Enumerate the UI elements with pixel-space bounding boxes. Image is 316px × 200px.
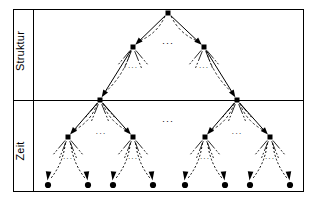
fan-l4-a-dots-1 bbox=[53, 150, 57, 155]
section-label-struktur: Struktur bbox=[14, 19, 26, 83]
edge-l2right-to-l3right-solid bbox=[206, 50, 232, 92]
leaf-edge-1-arrowhead bbox=[46, 171, 52, 180]
diagram-canvas: ······························ Struktur … bbox=[0, 0, 316, 200]
tree-leaf-7 bbox=[247, 182, 253, 188]
leaf-edge-2-arrowhead bbox=[84, 171, 90, 180]
ellipsis-under-l4-c: ··· bbox=[200, 155, 210, 162]
fan-l4-b-dots-0 bbox=[124, 153, 126, 159]
edge-l2left-to-l3left-arrowhead bbox=[102, 89, 108, 97]
fan-l4-b-dots-3 bbox=[140, 153, 142, 159]
leaf-edge-5-arrowhead bbox=[183, 171, 189, 180]
fan-l3-left-dots-3 bbox=[107, 116, 109, 122]
tree-node-root bbox=[166, 11, 171, 16]
leaf-edge-6-arrowhead bbox=[221, 171, 227, 180]
tree-node-l4-a bbox=[66, 135, 71, 140]
fan-l4-a-dots-3 bbox=[75, 153, 77, 159]
fan-l2-right-dots-0 bbox=[195, 63, 197, 69]
fan-l4-d-dots-3 bbox=[277, 153, 279, 159]
section-label-zeit: Zeit bbox=[14, 127, 26, 175]
ellipsis-under-l4-a: ··· bbox=[63, 155, 73, 162]
tree-node-l4-c bbox=[203, 135, 208, 140]
edge-root-to-l2-right-solid bbox=[171, 16, 198, 41]
tree-node-l2-right bbox=[202, 45, 207, 50]
fan-l4-c-dots-3 bbox=[212, 153, 214, 159]
fan-l4-d-dots-1 bbox=[255, 150, 259, 155]
fan-l4-c-dots-1 bbox=[190, 150, 194, 155]
fan-l4-d-dots-0 bbox=[261, 153, 263, 159]
tree-leaf-2 bbox=[85, 182, 91, 188]
ellipsis-under-l4-b: ··· bbox=[128, 155, 138, 162]
ellipsis-left-l4-pair: ··· bbox=[96, 129, 107, 138]
tree-node-l4-d bbox=[268, 135, 273, 140]
leaf-edge-4-arrowhead bbox=[149, 171, 155, 180]
fan-l3-right-dots-3 bbox=[244, 116, 246, 122]
fan-l4-d-dots-2 bbox=[281, 150, 285, 155]
tree-diagram-svg: ······························ bbox=[0, 0, 316, 200]
leaf-edge-group bbox=[46, 143, 291, 180]
tree-leaf-5 bbox=[182, 182, 188, 188]
tree-leaf-4 bbox=[150, 182, 156, 188]
fan-l2-right-dots-1 bbox=[189, 60, 193, 65]
ellipsis-level2-middle: ··· bbox=[162, 38, 174, 48]
fan-l4-b-dots-2 bbox=[144, 150, 148, 155]
edge-l2right-to-l3right-arrowhead bbox=[229, 89, 235, 97]
tree-node-l2-left bbox=[131, 45, 136, 50]
tree-node-l4-b bbox=[131, 135, 136, 140]
tree-node-l3-right bbox=[235, 98, 240, 103]
leaf-edge-8-arrowhead bbox=[286, 171, 292, 180]
fan-l4-b-dots-1 bbox=[118, 150, 122, 155]
tree-leaf-3 bbox=[110, 182, 116, 188]
fan-l2-right-dots-2 bbox=[215, 60, 219, 65]
fan-l2-left-dots-2 bbox=[144, 60, 148, 65]
leaf-edge-7-arrowhead bbox=[248, 171, 254, 180]
tree-leaf-6 bbox=[222, 182, 228, 188]
leaf-edge-3-arrowhead bbox=[111, 171, 117, 180]
edge-l3left-to-l4a-solid bbox=[74, 103, 98, 131]
tree-leaf-1 bbox=[45, 182, 51, 188]
ellipsis-under-right-l2: ··· bbox=[199, 64, 209, 71]
diagram-frame bbox=[14, 10, 304, 192]
ellipsis-right-l4-pair: ··· bbox=[232, 129, 243, 138]
fan-l4-a-dots-0 bbox=[59, 153, 61, 159]
ellipsis-under-l4-d: ··· bbox=[265, 155, 275, 162]
fan-l2-left-dots-1 bbox=[118, 60, 122, 65]
fan-l4-c-dots-0 bbox=[196, 153, 198, 159]
fan-l4-a-dots-2 bbox=[79, 150, 83, 155]
node-fan-group bbox=[53, 50, 286, 159]
ellipsis-under-left-l2: ··· bbox=[128, 64, 138, 71]
edge-l3right-to-l4c-solid bbox=[211, 103, 235, 131]
tree-node-l3-left bbox=[98, 98, 103, 103]
fan-l3-right-dots-0 bbox=[228, 116, 230, 122]
edge-l2left-to-l3left-solid bbox=[104, 50, 130, 92]
fan-l2-left-dots-3 bbox=[140, 63, 142, 69]
ellipsis-level3-middle: ··· bbox=[162, 116, 174, 126]
tree-leaf-8 bbox=[287, 182, 293, 188]
fan-l4-c-dots-2 bbox=[216, 150, 220, 155]
fan-l3-left-dots-0 bbox=[91, 116, 93, 122]
